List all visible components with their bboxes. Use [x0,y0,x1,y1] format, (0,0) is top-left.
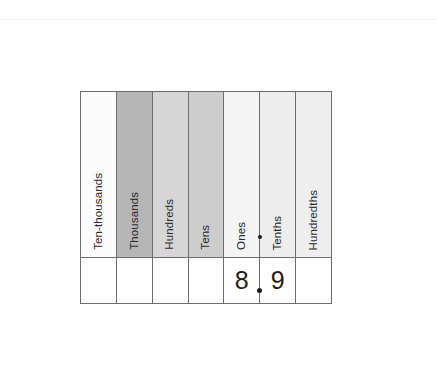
column-label-ones: Ones [236,222,248,250]
header-cell-thousands: Thousands [116,92,152,258]
column-label-ten-thousands: Ten-thousands [93,173,105,250]
value-cell-ten-thousands[interactable] [81,258,117,304]
header-cell-ten-thousands: Ten-thousands [81,92,117,258]
place-value-table: Ten-thousands Thousands Hundreds Tens On… [80,91,332,304]
column-label-tens: Tens [200,225,212,250]
digit-ones: 8 [235,266,249,294]
digit-tenths: 9 [271,266,285,294]
header-cell-hundreds: Hundreds [152,92,188,258]
column-label-hundreds: Hundreds [164,199,176,250]
column-label-hundredths: Hundredths [308,190,320,250]
value-cell-hundredths[interactable] [296,258,332,304]
table-header-row: Ten-thousands Thousands Hundreds Tens On… [81,92,332,258]
header-cell-tens: Tens [188,92,224,258]
value-cell-ones[interactable]: 8 [224,258,260,304]
place-value-chart: Ten-thousands Thousands Hundreds Tens On… [80,91,332,302]
table-value-row: 8 9 [81,258,332,304]
header-cell-hundredths: Hundredths [296,92,332,258]
header-cell-ones: Ones [224,92,260,258]
value-cell-tenths[interactable]: 9 [260,258,296,304]
top-divider-rule [0,19,437,20]
decimal-point-marker-header [258,235,262,239]
column-label-thousands: Thousands [129,192,141,250]
value-cell-hundreds[interactable] [152,258,188,304]
column-label-tenths: Tenths [272,216,284,250]
header-cell-tenths: Tenths [260,92,296,258]
value-cell-thousands[interactable] [116,258,152,304]
value-cell-tens[interactable] [188,258,224,304]
